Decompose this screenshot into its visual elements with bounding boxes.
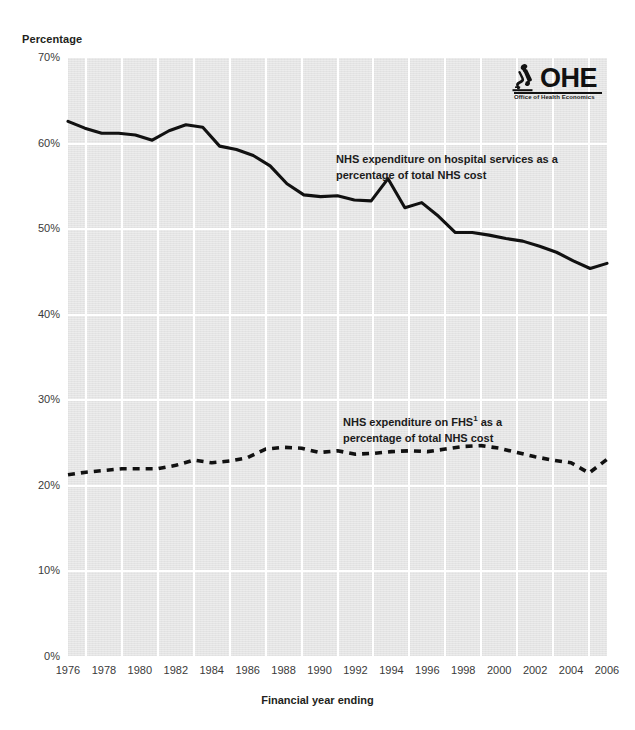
x-tick-label-1990: 1990 (300, 664, 340, 676)
x-tick-label-1988: 1988 (264, 664, 304, 676)
y-tick-label-40: 40% (4, 308, 60, 320)
y-tick-label-60: 60% (4, 137, 60, 149)
x-tick-label-1992: 1992 (335, 664, 375, 676)
y-tick-label-0: 0% (4, 650, 60, 662)
x-tick-label-1976: 1976 (48, 664, 88, 676)
fhs-annotation: NHS expenditure on FHS1 as a percentage … (343, 414, 502, 446)
hospital-annotation-line2: percentage of total NHS cost (336, 167, 558, 183)
x-tick-label-1980: 1980 (120, 664, 160, 676)
x-tick-label-1984: 1984 (192, 664, 232, 676)
x-tick-label-2000: 2000 (479, 664, 519, 676)
x-tick-label-2004: 2004 (551, 664, 591, 676)
y-tick-label-10: 10% (4, 564, 60, 576)
x-tick-label-2006: 2006 (587, 664, 627, 676)
x-tick-label-1998: 1998 (443, 664, 483, 676)
x-tick-label-1982: 1982 (156, 664, 196, 676)
ohe-logo-subtitle: Office of Health Economics (514, 94, 595, 100)
x-tick-label-1978: 1978 (84, 664, 124, 676)
y-tick-label-20: 20% (4, 479, 60, 491)
fhs-annotation-line2: percentage of total NHS cost (343, 430, 502, 446)
x-tick-label-1986: 1986 (228, 664, 268, 676)
ohe-logo: OHE Office of Health Economics (506, 62, 604, 106)
chart-root: Percentage 70%60%50%40%30%20%10%0% 19761… (0, 0, 635, 730)
y-axis-ticks: 70%60%50%40%30%20%10%0% (0, 0, 635, 730)
ohe-logo-text: OHE (540, 63, 597, 94)
microscope-icon (506, 62, 540, 94)
hospital-annotation: NHS expenditure on hospital services as … (336, 151, 558, 183)
fhs-annotation-line1-pre: NHS expenditure on FHS (343, 416, 473, 428)
x-tick-label-2002: 2002 (515, 664, 555, 676)
fhs-annotation-line1: NHS expenditure on FHS1 as a (343, 414, 502, 430)
y-tick-label-70: 70% (4, 51, 60, 63)
fhs-annotation-line1-post: as a (478, 416, 502, 428)
x-axis-title: Financial year ending (0, 694, 635, 706)
y-tick-label-50: 50% (4, 222, 60, 234)
y-tick-label-30: 30% (4, 393, 60, 405)
hospital-annotation-line1: NHS expenditure on hospital services as … (336, 151, 558, 167)
x-tick-label-1996: 1996 (407, 664, 447, 676)
x-tick-label-1994: 1994 (371, 664, 411, 676)
